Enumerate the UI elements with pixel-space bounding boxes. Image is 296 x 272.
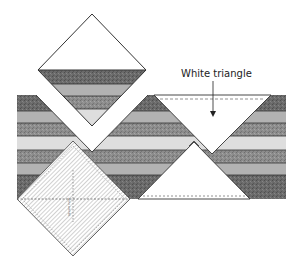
- band-light: [10, 136, 290, 150]
- diagram-canvas: square ruler White triangle: [0, 0, 296, 272]
- ruler-brand-text: square ruler: [67, 197, 71, 216]
- white-triangle-label: White triangle: [181, 68, 252, 79]
- band-texture-1: [10, 123, 290, 136]
- band-texture-2: [10, 150, 290, 163]
